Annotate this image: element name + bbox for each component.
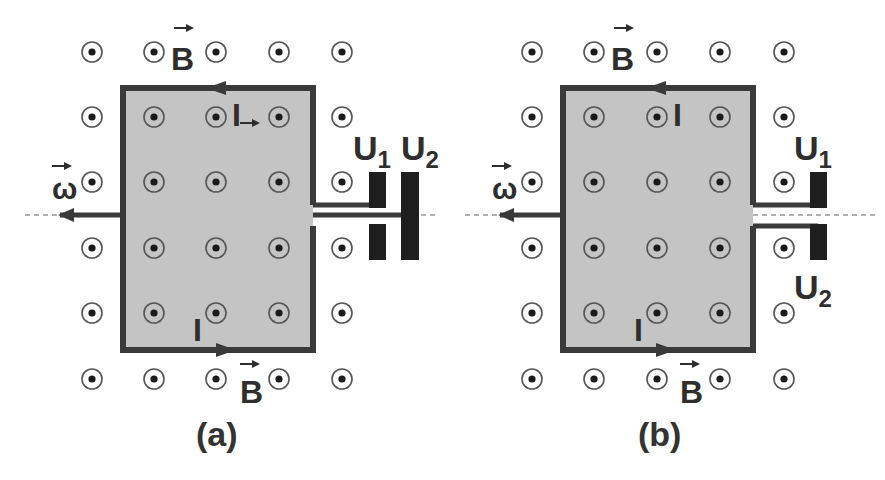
omega-vector-arrow bbox=[492, 162, 512, 170]
electrode-u2 bbox=[401, 172, 419, 260]
electrode-u2 bbox=[810, 224, 827, 260]
b-vector-arrow-icon bbox=[614, 24, 634, 32]
panel-a: B I I B ω U1 U2 (a) bbox=[25, 24, 439, 453]
label-i-top: I bbox=[673, 97, 682, 133]
label-b-bottom: B bbox=[240, 374, 263, 410]
b-bottom-arrow bbox=[240, 360, 260, 368]
label-i-bottom: I bbox=[193, 312, 202, 348]
caption-b: (b) bbox=[638, 415, 681, 453]
panel-b: B I I B ω U1 U2 (b) bbox=[465, 24, 875, 453]
label-u1: U1 bbox=[794, 129, 832, 173]
label-u1: U1 bbox=[353, 129, 391, 173]
b-vector-arrow-icon bbox=[174, 24, 194, 32]
label-b-top: B bbox=[171, 41, 194, 77]
label-omega: ω bbox=[492, 172, 517, 205]
omega-vector-arrow bbox=[52, 162, 72, 170]
label-u2: U2 bbox=[794, 268, 832, 312]
electrode-u1-upper bbox=[369, 172, 386, 208]
label-i-top: I bbox=[232, 97, 241, 133]
label-b-bottom: B bbox=[680, 374, 703, 410]
electrode-u1 bbox=[810, 172, 827, 208]
label-b-top: B bbox=[611, 41, 634, 77]
b-bottom-arrow bbox=[680, 360, 700, 368]
electrode-u1-lower bbox=[369, 224, 386, 260]
figure-canvas: B I I B ω U1 U2 (a) bbox=[0, 0, 885, 480]
label-i-bottom: I bbox=[634, 312, 643, 348]
omega-arrowhead-icon bbox=[58, 208, 74, 222]
label-omega: ω bbox=[52, 172, 77, 205]
omega-arrowhead-icon bbox=[498, 208, 514, 222]
label-u2: U2 bbox=[401, 129, 439, 173]
caption-a: (a) bbox=[196, 415, 238, 453]
